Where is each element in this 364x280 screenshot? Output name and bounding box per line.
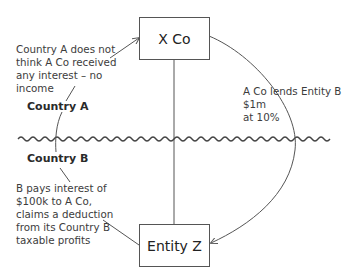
note-line: taxable profits <box>16 234 126 247</box>
node-entity-z-label: Entity Z <box>147 238 202 254</box>
note-line: claims a deduction <box>16 208 126 221</box>
node-x-co-label: X Co <box>158 31 190 47</box>
loan-note: A Co lends Entity B $1m at 10% <box>243 85 363 124</box>
country-a-note: Country A does not think A Co received a… <box>16 43 126 95</box>
note-line: Country A does not <box>16 43 126 56</box>
note-line: A Co lends Entity B $1m <box>243 85 363 111</box>
note-line: think A Co received <box>16 56 126 69</box>
note-line: $100k to A Co, <box>16 195 126 208</box>
note-line: any interest – no <box>16 69 126 82</box>
region-country-a-label: Country A <box>27 100 89 113</box>
note-line: income <box>16 82 126 95</box>
region-country-b-label: Country B <box>27 152 88 165</box>
country-b-note: B pays interest of $100k to A Co, claims… <box>16 182 126 247</box>
node-x-co: X Co <box>139 17 210 60</box>
note-line: at 10% <box>243 111 363 124</box>
node-entity-z: Entity Z <box>139 224 210 267</box>
note-line: B pays interest of <box>16 182 126 195</box>
note-line: from its Country B <box>16 221 126 234</box>
